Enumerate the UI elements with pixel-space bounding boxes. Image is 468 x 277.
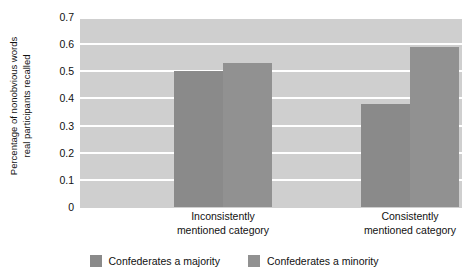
- legend-label: Confederates a minority: [267, 255, 378, 267]
- gridline: [80, 17, 462, 19]
- y-axis-title-line1: Percentage of nonobvious words: [7, 37, 20, 175]
- y-axis-title: Percentage of nonobvious words real part…: [0, 0, 40, 212]
- y-axis-tick-label: 0.2: [59, 148, 74, 158]
- y-axis-tick-label: 0.4: [59, 93, 74, 103]
- y-axis-tick-label: 0.7: [59, 12, 74, 22]
- x-axis-category-label: Inconsistentlymentioned category: [143, 210, 303, 237]
- chart-legend: Confederates a majorityConfederates a mi…: [0, 250, 468, 272]
- y-axis-tick-label: 0.5: [59, 66, 74, 76]
- bar: [223, 63, 272, 207]
- legend-item[interactable]: Confederates a minority: [248, 255, 378, 267]
- bar-chart: Percentage of nonobvious words real part…: [0, 0, 468, 277]
- gridline: [80, 43, 462, 45]
- bar: [410, 47, 459, 207]
- y-axis-tick-label: 0.3: [59, 121, 74, 131]
- bar: [174, 71, 223, 207]
- y-axis-title-line2: real participants recalled: [20, 37, 33, 175]
- x-axis-tick-labels: Inconsistentlymentioned categoryConsiste…: [80, 210, 462, 244]
- y-axis-tick-label: 0.6: [59, 39, 74, 49]
- x-axis-line: [80, 207, 462, 208]
- legend-swatch-icon: [90, 255, 102, 267]
- legend-item[interactable]: Confederates a majority: [90, 255, 220, 267]
- x-axis-category-label: Consistentlymentioned category: [330, 210, 468, 237]
- bar: [361, 104, 410, 207]
- plot-area: [80, 17, 462, 207]
- y-axis-tick-label: 0: [68, 202, 74, 212]
- y-axis-tick-label: 0.1: [59, 175, 74, 185]
- legend-swatch-icon: [248, 255, 260, 267]
- legend-label: Confederates a majority: [109, 255, 220, 267]
- y-axis-tick-labels: 0.70.60.50.40.30.20.10: [40, 0, 78, 212]
